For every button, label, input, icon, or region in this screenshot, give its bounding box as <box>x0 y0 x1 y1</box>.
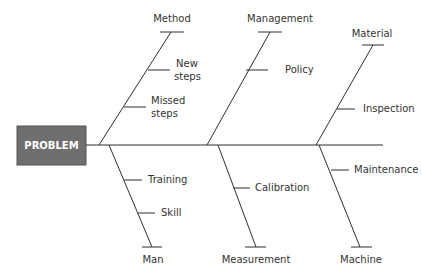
fishbone-diagram: PROBLEM Method New steps Missed steps Ma… <box>0 0 422 276</box>
branch-measurement: Measurement Calibration <box>218 145 309 265</box>
branch-management: Management Policy <box>207 13 314 145</box>
cause-missed-steps-2: steps <box>151 108 178 119</box>
cause-calibration: Calibration <box>255 182 309 193</box>
category-management: Management <box>247 13 313 24</box>
category-machine: Machine <box>340 254 382 265</box>
branch-material: Material Inspection <box>316 28 415 145</box>
cause-policy: Policy <box>285 64 314 75</box>
cause-missed-steps-1: Missed <box>151 95 185 106</box>
cause-inspection: Inspection <box>363 103 415 114</box>
problem-box: PROBLEM <box>17 126 86 165</box>
category-measurement: Measurement <box>222 254 291 265</box>
branch-man: Man Training Skill <box>109 145 187 265</box>
cause-new-steps-2: steps <box>174 71 201 82</box>
problem-label: PROBLEM <box>24 140 78 151</box>
branch-method: Method New steps Missed steps <box>99 13 201 145</box>
cause-maintenance: Maintenance <box>354 164 418 175</box>
cause-training: Training <box>147 174 187 185</box>
cause-skill: Skill <box>161 207 181 218</box>
category-man: Man <box>142 254 163 265</box>
category-method: Method <box>153 13 191 24</box>
cause-new-steps-1: New <box>176 58 198 69</box>
category-material: Material <box>352 28 393 39</box>
branch-machine: Machine Maintenance <box>319 145 418 265</box>
